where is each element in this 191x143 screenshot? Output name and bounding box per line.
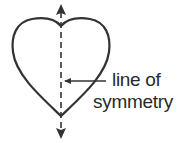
pointer-arrow-icon xyxy=(64,78,71,84)
arrow-down-icon xyxy=(56,128,66,139)
label-symmetry: symmetry xyxy=(93,92,173,112)
heart-diagram xyxy=(0,0,191,143)
label-line-of: line of xyxy=(112,70,161,90)
